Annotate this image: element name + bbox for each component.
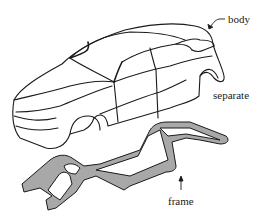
- separate-label: separate: [213, 90, 249, 101]
- frame-label: frame: [168, 196, 194, 207]
- body-frame-diagram: body separate frame: [0, 0, 260, 223]
- diagram-drawing: [0, 0, 260, 223]
- body-pointer-arrow: [208, 19, 225, 29]
- chassis-frame: [22, 122, 228, 210]
- frame-pointer-arrow: [179, 176, 183, 190]
- body-label: body: [228, 14, 250, 25]
